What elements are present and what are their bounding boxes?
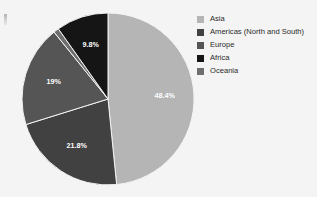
chart-legend: Asia Americas (North and South) Europe A…	[197, 13, 315, 78]
legend-item-oceania[interactable]: Oceania	[197, 65, 315, 77]
legend-item-europe[interactable]: Europe	[197, 39, 315, 51]
pie-data-label-europe: 19%	[47, 77, 62, 86]
legend-label-asia: Asia	[210, 15, 225, 23]
pie-data-label-asia: 48.4%	[154, 91, 175, 100]
legend-swatch-icon-americas	[197, 29, 204, 36]
legend-item-asia[interactable]: Asia	[197, 13, 315, 25]
legend-item-americas[interactable]: Americas (North and South)	[197, 26, 315, 38]
pie-chart-svg: 48.4%21.8%19%9.8%	[21, 11, 195, 187]
legend-label-oceania: Oceania	[210, 67, 238, 75]
legend-swatch-icon-africa	[197, 55, 204, 62]
pie-slice-asia[interactable]	[108, 13, 194, 185]
pie-chart: 48.4%21.8%19%9.8%	[21, 11, 195, 187]
legend-label-americas: Americas (North and South)	[210, 28, 304, 36]
legend-swatch-icon-asia	[197, 16, 204, 23]
edge-artifact	[4, 14, 7, 25]
pie-data-label-americas-north-and-south: 21.8%	[66, 141, 87, 150]
legend-label-africa: Africa	[210, 54, 229, 62]
pie-data-label-africa: 9.8%	[83, 40, 100, 49]
legend-label-europe: Europe	[210, 41, 235, 49]
legend-swatch-icon-oceania	[197, 68, 204, 75]
legend-item-africa[interactable]: Africa	[197, 52, 315, 64]
legend-swatch-icon-europe	[197, 42, 204, 49]
chart-root: 48.4%21.8%19%9.8% Asia Americas (North a…	[0, 0, 317, 197]
